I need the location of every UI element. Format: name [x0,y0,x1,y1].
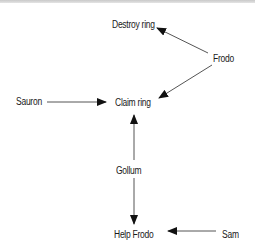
node-destroy-ring: Destroy ring [112,19,155,30]
edge-frodo-to-claim-ring [159,65,212,98]
edge-frodo-to-destroy-ring [157,28,208,53]
node-claim-ring: Claim ring [115,97,151,108]
node-sam: Sam [222,229,239,240]
node-gollum: Gollum [116,165,141,176]
edges-layer [0,0,255,248]
node-help-frodo: Help Frodo [114,229,153,240]
node-sauron: Sauron [16,96,42,107]
node-frodo: Frodo [213,53,234,64]
